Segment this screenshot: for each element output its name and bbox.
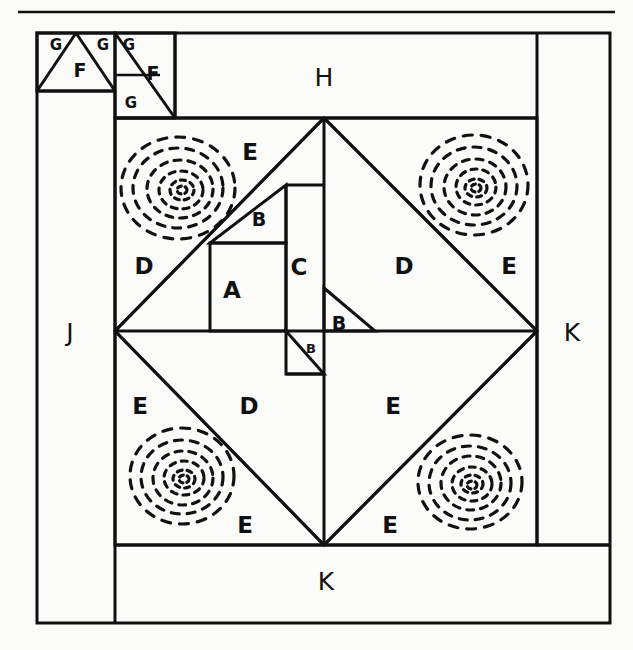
- label-d-upper-right: D: [394, 253, 413, 279]
- diagram-sheet: G G F G G F H J K K A B B B C D D D E E …: [0, 0, 633, 650]
- label-e-top: E: [242, 139, 258, 165]
- label-g1: G: [50, 36, 62, 54]
- label-e-lower-mid: E: [385, 393, 401, 419]
- label-d-lower-left: D: [239, 393, 258, 419]
- label-c: C: [291, 254, 308, 280]
- label-b-upper: B: [252, 208, 266, 230]
- label-f2: F: [147, 62, 160, 84]
- label-g3: G: [123, 36, 135, 54]
- label-e-bottom-right: E: [382, 512, 398, 538]
- label-f1: F: [74, 59, 87, 81]
- label-b-center-right: B: [332, 312, 346, 334]
- label-h: H: [315, 63, 334, 92]
- label-k-right: K: [564, 318, 581, 347]
- label-g4: G: [125, 94, 137, 112]
- label-k-bottom: K: [318, 567, 335, 596]
- label-b-center-lower: B: [306, 341, 316, 356]
- label-e-bottom-left: E: [237, 512, 253, 538]
- label-e-right: E: [501, 253, 517, 279]
- label-d-left: D: [134, 253, 153, 279]
- label-j: J: [64, 318, 73, 347]
- label-a: A: [223, 277, 241, 303]
- quilt-block-diagram: G G F G G F H J K K A B B B C D D D E E …: [0, 0, 633, 650]
- label-g2: G: [97, 36, 109, 54]
- label-e-left-lower: E: [132, 393, 148, 419]
